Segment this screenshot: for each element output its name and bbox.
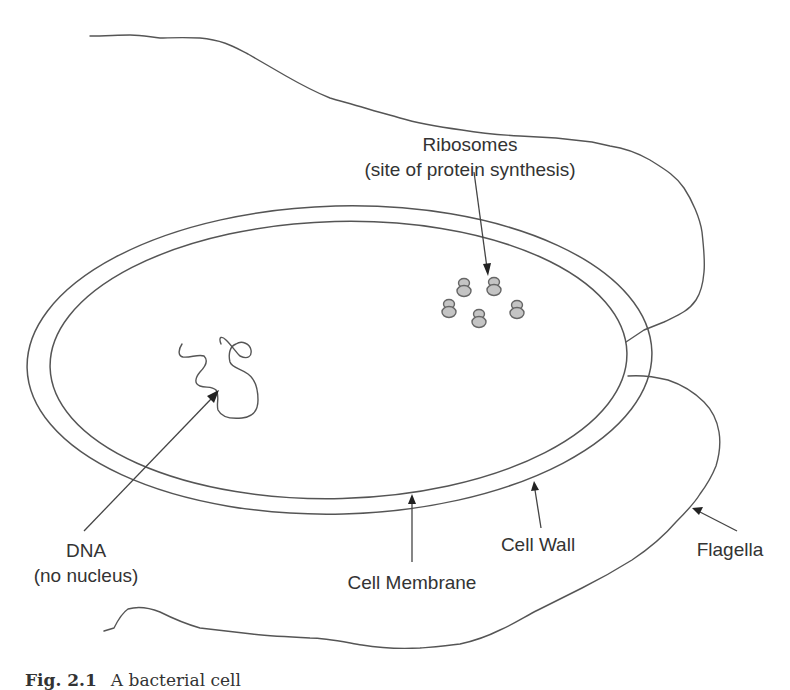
cell-membrane — [46, 214, 630, 506]
ribosome — [457, 279, 471, 297]
ribosomes-arrow — [474, 172, 491, 276]
ribosome — [472, 310, 486, 328]
cell-membrane-label: Cell Membrane — [322, 570, 502, 595]
ribosomes-label: Ribosomes (site of protein synthesis) — [340, 132, 600, 182]
dna-label-subtitle: (no nucleus) — [6, 563, 166, 588]
figure-caption: Fig. 2.1A bacterial cell — [25, 670, 241, 690]
figure-caption-text: A bacterial cell — [111, 670, 241, 690]
flagella-label: Flagella — [675, 537, 785, 562]
dna-arrow — [84, 390, 219, 531]
ribosome — [487, 278, 501, 296]
ribosome — [510, 301, 524, 319]
ribosomes-label-title: Ribosomes — [340, 132, 600, 157]
cell-wall-label: Cell Wall — [478, 532, 598, 557]
flagellum-upper — [90, 35, 704, 342]
dna-strand — [179, 337, 258, 418]
cell-wall-arrow — [531, 481, 541, 528]
flagella-arrow — [692, 507, 737, 531]
ribosomes-label-subtitle: (site of protein synthesis) — [340, 157, 600, 182]
dna-label: DNA (no nucleus) — [6, 538, 166, 588]
dna-label-title: DNA — [6, 538, 166, 563]
cell-membrane-arrow — [408, 494, 416, 562]
ribosome-group — [442, 278, 524, 328]
ribosome — [442, 300, 456, 318]
figure-number: Fig. 2.1 — [25, 670, 97, 690]
cell-wall — [23, 198, 656, 522]
